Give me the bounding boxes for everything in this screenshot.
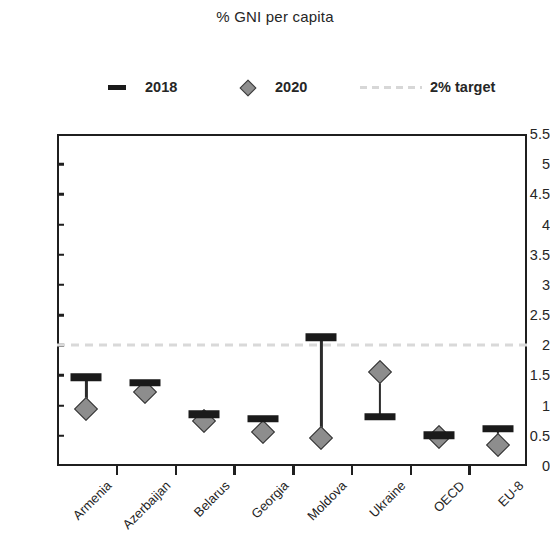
data-point-2018[interactable] (130, 379, 161, 387)
data-point-2018[interactable] (188, 410, 219, 418)
data-point-2018[interactable] (306, 334, 337, 342)
legend-label-2018: 2018 (145, 79, 177, 95)
legend-entry-target[interactable]: 2% target (360, 74, 495, 100)
data-point-2018[interactable] (71, 374, 102, 382)
x-category-label: Armenia (0, 478, 115, 544)
data-point-2018[interactable] (423, 431, 454, 439)
data-point-2020[interactable] (368, 360, 392, 384)
x-tick-mark (116, 466, 119, 475)
data-point-2020[interactable] (74, 397, 98, 421)
chart-title: % GNI per capita (0, 8, 550, 25)
data-point-2020[interactable] (309, 426, 333, 450)
legend-label-2020: 2020 (275, 79, 307, 95)
data-point-2018[interactable] (482, 425, 513, 433)
plot-content (57, 134, 527, 466)
data-point-2020[interactable] (251, 420, 275, 444)
x-tick-mark (468, 466, 471, 475)
legend-entry-2018[interactable]: 2018 (105, 74, 177, 100)
diamond-marker-icon (235, 79, 261, 95)
series-connector (320, 337, 322, 438)
chart-legend: 2018 2020 2% target (95, 74, 515, 100)
chart-figure: % GNI per capita 2018 2020 2% target 5.5… (0, 0, 550, 544)
legend-label-target: 2% target (430, 79, 495, 95)
target-reference-line (57, 344, 527, 347)
x-tick-mark (292, 466, 295, 475)
dashed-line-icon (360, 79, 422, 95)
legend-entry-2020[interactable]: 2020 (235, 74, 307, 100)
x-tick-mark (351, 466, 354, 475)
data-point-2018[interactable] (365, 413, 396, 421)
x-tick-mark (410, 466, 413, 475)
x-tick-mark (233, 466, 236, 475)
x-tick-mark (175, 466, 178, 475)
data-point-2018[interactable] (247, 415, 278, 423)
data-point-2020[interactable] (486, 433, 510, 457)
dash-marker-icon (105, 79, 131, 95)
